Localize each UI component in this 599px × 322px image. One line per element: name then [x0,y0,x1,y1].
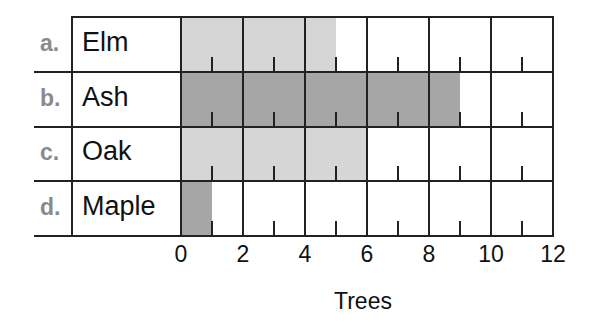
minor-tick [459,112,461,126]
minor-tick [211,166,213,180]
x-axis-title: Trees [334,288,392,315]
gridline-8 [428,16,430,237]
row-divider [34,180,554,182]
minor-tick [273,57,275,71]
gridline-0 [180,16,182,237]
bar-maple [181,182,212,236]
minor-tick [273,112,275,126]
x-tick-label-4: 4 [299,241,312,268]
grid-top-border [71,16,554,18]
minor-tick [397,221,399,235]
minor-tick [335,57,337,71]
x-tick-label-0: 0 [175,241,188,268]
row-letter-d: d. [40,194,68,221]
minor-tick [211,112,213,126]
row-letter-a: a. [40,30,68,57]
minor-tick [397,57,399,71]
x-tick-label-12: 12 [540,241,566,268]
x-tick-label-2: 2 [237,241,250,268]
minor-tick [521,166,523,180]
minor-tick [335,112,337,126]
row-letter-b: b. [40,85,68,112]
row-label-ash: Ash [82,82,129,113]
minor-tick [211,57,213,71]
gridline-12 [552,16,554,237]
minor-tick [335,166,337,180]
bar-ash [181,73,460,127]
minor-tick [397,166,399,180]
row-divider [34,71,554,73]
x-tick-label-10: 10 [478,241,504,268]
gridline-2 [242,16,244,237]
minor-tick [397,112,399,126]
minor-tick [521,57,523,71]
row-label-maple: Maple [82,191,156,222]
minor-tick [521,112,523,126]
minor-tick [459,166,461,180]
gridline-6 [366,16,368,237]
minor-tick [211,221,213,235]
gridline-10 [490,16,492,237]
minor-tick [459,57,461,71]
minor-tick [273,166,275,180]
row-divider [34,126,554,128]
label-column-left-border [71,16,73,237]
minor-tick [459,221,461,235]
row-label-elm: Elm [82,27,129,58]
gridline-4 [304,16,306,237]
grid-bottom-border [34,235,554,237]
row-label-oak: Oak [82,136,132,167]
x-tick-label-6: 6 [361,241,374,268]
x-tick-label-8: 8 [423,241,436,268]
minor-tick [335,221,337,235]
minor-tick [521,221,523,235]
minor-tick [273,221,275,235]
bar-elm [181,18,336,72]
row-letter-c: c. [40,139,68,166]
